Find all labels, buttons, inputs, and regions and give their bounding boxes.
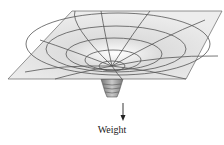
rubber-sheet <box>8 11 222 79</box>
down-arrow-icon <box>121 103 126 121</box>
weight-label: Weight <box>0 124 224 135</box>
funnel <box>101 79 123 97</box>
